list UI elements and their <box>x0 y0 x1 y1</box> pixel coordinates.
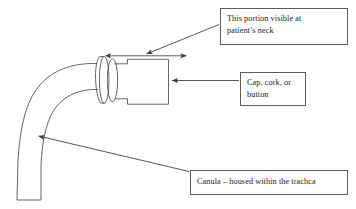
label-cap-line-1: Cap, cork, or <box>247 77 300 89</box>
label-box-cap-cork-button[interactable]: Cap, cork, or button <box>240 72 306 106</box>
annotation-arrows <box>39 25 240 172</box>
cannula-inner-wall <box>41 89 98 200</box>
canula-label-leader-arrow <box>39 136 190 172</box>
label-canula-line-1: Canula – housed within the trachca <box>197 176 342 188</box>
cap-outline <box>115 59 169 104</box>
flange-ring-rear-arc <box>96 57 101 104</box>
label-neck-line-2: patient’s neck <box>227 25 342 37</box>
cannula-tube <box>17 63 98 200</box>
label-box-patient-neck[interactable]: This portion visible at patient’s neck <box>220 8 348 45</box>
label-box-canula[interactable]: Canula – housed within the trachca <box>190 170 348 195</box>
label-cap-line-2: button <box>247 89 300 101</box>
flange-assembly <box>96 56 118 103</box>
cannula-outer-wall <box>17 63 97 200</box>
label-neck-line-1: This portion visible at <box>227 13 342 25</box>
cap-body <box>115 59 169 104</box>
neck-label-leader-arrow <box>147 25 220 55</box>
figure-canvas: This portion visible at patient’s neck C… <box>0 0 356 209</box>
